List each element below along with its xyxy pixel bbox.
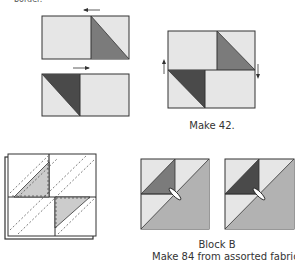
- sew-diagram: [5, 154, 96, 239]
- unit-bottom: [42, 66, 129, 116]
- arrow-left-icon: [83, 8, 100, 12]
- make-42-caption: Make 42.: [182, 120, 242, 132]
- unit-top: [42, 8, 129, 59]
- quilt-diagram-canvas: [0, 0, 295, 265]
- arrow-up-icon: [162, 59, 166, 74]
- block-b-title: Block B: [157, 239, 277, 251]
- assembled-unit: [162, 31, 260, 108]
- arrow-right-icon: [73, 66, 90, 70]
- block-b-dark: [225, 159, 294, 229]
- block-b-caption: Make 84 from assorted fabrics.: [152, 251, 292, 263]
- arrow-down-icon: [256, 64, 260, 79]
- block-b-medium: [141, 159, 209, 229]
